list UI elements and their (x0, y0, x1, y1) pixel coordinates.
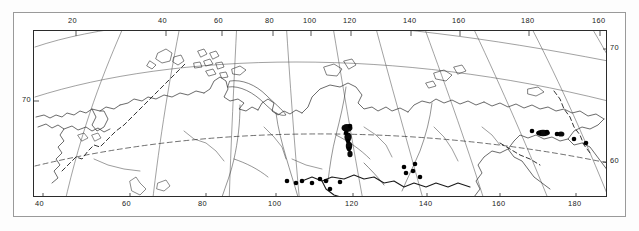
data-point-19 (545, 130, 550, 135)
right-latitude-label-1: 60 (610, 157, 619, 164)
data-point-18 (537, 131, 542, 136)
data-point-4 (318, 177, 323, 182)
data-point-6 (328, 187, 333, 192)
data-point-14 (411, 169, 416, 174)
data-point-12 (402, 165, 407, 170)
top-longitude-label-9: 160 (592, 17, 606, 24)
arctic-islands (147, 49, 544, 115)
data-point-5 (324, 179, 329, 184)
data-point-3 (310, 181, 315, 186)
right-latitude-label-0: 70 (610, 44, 619, 51)
bottom-longitude-label-0: 40 (35, 200, 44, 207)
top-longitude-label-1: 40 (158, 17, 167, 24)
data-point-2 (300, 179, 305, 184)
top-longitude-label-4: 100 (303, 17, 317, 24)
top-longitude-label-5: 120 (343, 17, 357, 24)
administrative-lines (94, 127, 500, 171)
data-point-7 (338, 180, 343, 185)
top-longitude-label-8: 180 (521, 17, 535, 24)
bottom-longitude-label-7: 180 (568, 200, 582, 207)
left-latitude-label-0: 70 (22, 96, 31, 103)
top-longitude-label-2: 60 (214, 17, 223, 24)
map-graphic (34, 31, 607, 197)
top-longitude-label-0: 20 (68, 17, 77, 24)
data-point-8 (344, 131, 349, 136)
axis-ticks (34, 31, 607, 197)
data-point-21 (572, 137, 577, 142)
bottom-longitude-label-1: 60 (122, 200, 131, 207)
top-longitude-label-6: 140 (403, 17, 417, 24)
bottom-longitude-label-6: 160 (492, 200, 506, 207)
data-point-11 (348, 124, 353, 129)
bottom-longitude-label-4: 120 (345, 200, 359, 207)
data-point-9 (346, 139, 351, 144)
bottom-longitude-label-3: 100 (268, 200, 282, 207)
map-figure: 20406080100120140160180160 4060801001201… (0, 0, 639, 231)
top-longitude-label-7: 160 (452, 17, 466, 24)
bottom-longitude-label-2: 80 (198, 200, 207, 207)
data-point-22 (584, 141, 589, 146)
top-longitude-label-3: 80 (265, 17, 274, 24)
bottom-longitude-label-5: 140 (419, 200, 433, 207)
data-point-20 (555, 132, 560, 137)
lakes (78, 133, 384, 195)
data-point-17 (530, 129, 535, 134)
data-point-0 (285, 179, 290, 184)
data-point-10 (347, 147, 352, 152)
parallel-lines (35, 31, 607, 166)
data-point-16 (418, 175, 423, 180)
data-point-1 (294, 181, 299, 186)
data-point-15 (413, 162, 418, 167)
data-point-13 (404, 171, 409, 176)
southern-boundary (302, 175, 470, 197)
meridian-lines (64, 31, 607, 197)
national-borders (62, 63, 590, 171)
map-neatline (33, 30, 607, 197)
